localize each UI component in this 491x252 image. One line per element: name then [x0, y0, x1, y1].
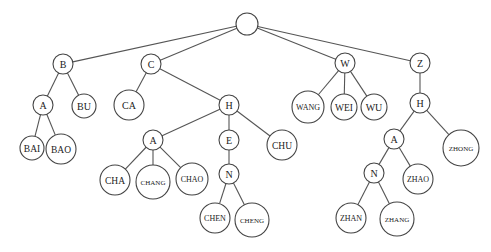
node-label: B: [60, 59, 67, 70]
edge-b-bu: [67, 73, 78, 95]
edge-root-z: [258, 26, 411, 60]
node-label: N: [370, 168, 377, 179]
node-label: WANG: [296, 103, 320, 112]
edge-c_h-chu: [237, 111, 270, 136]
tree-node-che-n: N: [219, 164, 239, 184]
node-label: ZHONG: [449, 145, 474, 153]
tree-node-c-h: H: [219, 95, 239, 115]
edge-zha_n-zhan: [358, 182, 370, 205]
edge-che_n-chen: [220, 184, 226, 204]
tree-node-wei: WEI: [331, 94, 357, 120]
node-label: CHU: [272, 141, 292, 151]
tree-node-wu: WU: [361, 94, 387, 120]
tree-node-zhan: ZHAN: [336, 203, 366, 233]
tree-node-c: C: [141, 54, 161, 74]
edge-root-w: [257, 28, 335, 59]
node-label: CHENG: [240, 217, 264, 225]
tree-node-chao: CHAO: [176, 163, 208, 195]
node-label: E: [226, 135, 232, 146]
tree-node-b-a: A: [33, 95, 53, 115]
node-label: BAI: [24, 144, 40, 154]
edge-z_h-zhong: [427, 110, 449, 134]
trie-diagram: BCWZABUBAIBAOCAHAECHUCHACHANGCHAONCHENCH…: [0, 0, 491, 252]
tree-node-zhang: ZHANG: [380, 202, 414, 236]
tree-node-bu: BU: [72, 94, 96, 118]
edge-z_h-zh_a: [400, 111, 414, 131]
node-label: WEI: [335, 103, 353, 113]
node-label: BAO: [51, 145, 71, 155]
node-label: C: [148, 59, 155, 70]
tree-node-cha: CHA: [100, 165, 130, 195]
node-label: BU: [77, 101, 92, 112]
edge-root-c: [160, 28, 237, 60]
tree-node-root: [236, 13, 258, 35]
edge-ch_a-cha: [125, 147, 146, 169]
node-label: ZHANG: [385, 216, 410, 224]
tree-node-bao: BAO: [46, 134, 76, 164]
node-label: A: [149, 135, 157, 146]
edge-che_n-cheng: [233, 183, 244, 205]
tree-node-chu: CHU: [267, 130, 297, 160]
node-label: H: [416, 98, 423, 109]
tree-node-bai: BAI: [20, 136, 44, 160]
node-label: CHANG: [141, 179, 166, 187]
tree-edges: [35, 26, 449, 204]
tree-node-w: W: [335, 53, 355, 73]
node-label: A: [390, 134, 398, 145]
edge-zh_a-zha_n: [379, 148, 389, 165]
tree-node-z-h: H: [410, 93, 430, 113]
node-label: A: [39, 100, 47, 111]
node-label: CA: [122, 100, 137, 111]
tree-node-b: B: [53, 54, 73, 74]
tree-node-cheng: CHENG: [235, 203, 269, 237]
edge-b_a-bai: [35, 115, 41, 137]
edge-b-b_a: [47, 73, 58, 96]
node-label: CHEN: [204, 214, 226, 223]
edge-zha_n-zhang: [378, 182, 389, 204]
tree-nodes: BCWZABUBAIBAOCAHAECHUCHACHANGCHAONCHENCH…: [20, 13, 479, 237]
tree-node-zha-n: N: [364, 163, 384, 183]
edge-c-ca: [136, 73, 146, 92]
tree-node-ch-a: A: [143, 130, 163, 150]
node-label: H: [225, 100, 232, 111]
node-label: CHA: [105, 176, 125, 186]
edge-c_h-ch_a: [162, 109, 220, 136]
edge-b_a-bao: [47, 114, 56, 135]
tree-node-z: Z: [410, 53, 430, 73]
node-label: W: [340, 58, 350, 69]
node-label: ZHAN: [340, 214, 362, 223]
node-label: CHAO: [181, 175, 204, 184]
tree-node-ch-e: E: [219, 130, 239, 150]
edge-c-c_h: [160, 69, 220, 101]
tree-node-ca: CA: [114, 90, 144, 120]
tree-node-zhao: ZHAO: [403, 164, 433, 194]
node-label: WU: [366, 102, 383, 113]
node-label: ZHAO: [407, 175, 429, 184]
tree-node-zh-a: A: [384, 129, 404, 149]
node-circle: [236, 13, 258, 35]
node-label: Z: [417, 58, 423, 69]
tree-node-wang: WANG: [292, 91, 324, 123]
node-label: N: [225, 169, 232, 180]
tree-node-chen: CHEN: [200, 203, 230, 233]
edge-w-wang: [318, 71, 338, 95]
tree-node-chang: CHANG: [136, 165, 170, 199]
tree-node-zhong: ZHONG: [443, 130, 479, 166]
edge-ch_a-chao: [160, 147, 181, 168]
edge-w-wu: [351, 71, 367, 96]
edge-zh_a-zhao: [399, 148, 410, 167]
